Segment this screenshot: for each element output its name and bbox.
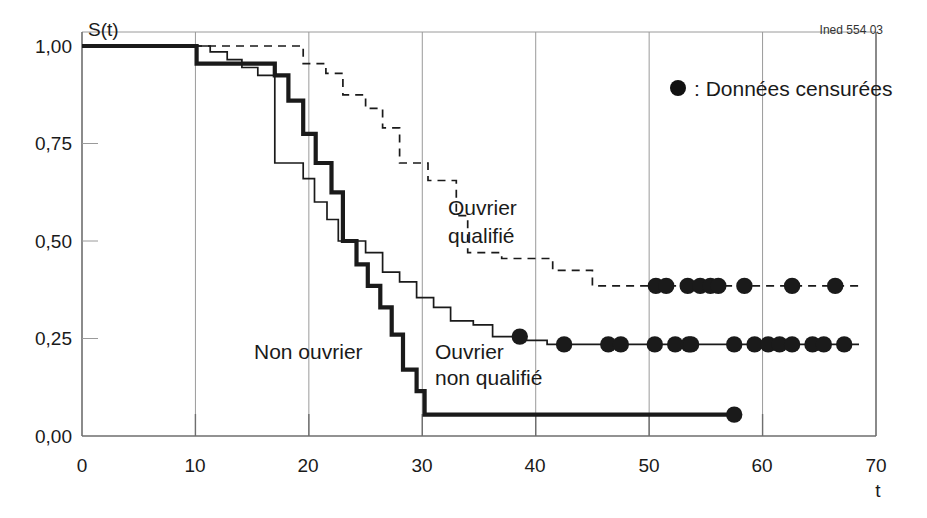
x-tick-label-0: 0	[77, 455, 88, 476]
censored-point-marker	[836, 336, 852, 352]
x-tick-label-30: 30	[411, 455, 432, 476]
censored-point-marker	[658, 278, 674, 294]
curve-label-unqualified-line1: Ouvrier	[435, 340, 504, 363]
y-tick-label-0: 0,00	[35, 426, 72, 447]
x-tick-label-40: 40	[524, 455, 545, 476]
y-tick-label-2: 0,50	[35, 231, 72, 252]
censored-point-marker	[816, 336, 832, 352]
x-tick-label-10: 10	[184, 455, 205, 476]
censored-point-marker	[784, 278, 800, 294]
censored-point-marker	[647, 336, 663, 352]
censored-point-marker	[726, 336, 742, 352]
censored-point-marker	[736, 278, 752, 294]
y-tick-label-1: 0,25	[35, 328, 72, 349]
y-axis-name: S(t)	[88, 19, 119, 40]
chart-canvas: 0,00 0,25 0,50 0,75 1,00 0 10 20 30 40 5…	[0, 0, 927, 518]
legend-label: : Données censurées	[694, 77, 892, 100]
censored-point-marker	[726, 406, 742, 422]
legend-marker-icon	[670, 80, 686, 96]
x-tick-label-20: 20	[297, 455, 318, 476]
credit-label: Ined 554 03	[820, 23, 884, 37]
censored-point-marker	[683, 336, 699, 352]
x-tick-label-70: 70	[865, 455, 886, 476]
curve-label-unqualified-line2: non qualifié	[435, 366, 542, 389]
x-tick-label-60: 60	[751, 455, 772, 476]
curve-label-qualified-line2: qualifié	[448, 224, 515, 247]
curve-label-qualified-line1: Ouvrier	[448, 196, 517, 219]
curve-label-non-ouvrier: Non ouvrier	[254, 340, 363, 363]
x-tick-label-50: 50	[638, 455, 659, 476]
censored-point-marker	[710, 278, 726, 294]
survival-chart-figure: 0,00 0,25 0,50 0,75 1,00 0 10 20 30 40 5…	[0, 0, 927, 518]
censored-point-marker	[556, 336, 572, 352]
y-tick-label-4: 1,00	[35, 36, 72, 57]
x-axis-name: t	[875, 480, 881, 501]
censored-point-marker	[613, 336, 629, 352]
censored-point-marker	[512, 328, 528, 344]
censored-point-marker	[827, 278, 843, 294]
y-tick-label-3: 0,75	[35, 133, 72, 154]
censored-point-marker	[784, 336, 800, 352]
